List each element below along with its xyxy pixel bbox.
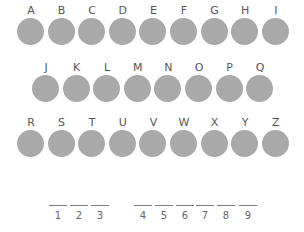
letter-key-disc[interactable] bbox=[78, 130, 105, 157]
letter-key-disc[interactable] bbox=[139, 18, 166, 45]
answer-slot-underline bbox=[196, 205, 214, 206]
answer-slot-number: 4 bbox=[134, 210, 152, 222]
letter-key-s[interactable]: S bbox=[48, 116, 76, 160]
letter-key-label: U bbox=[109, 116, 137, 129]
letter-key-e[interactable]: E bbox=[139, 4, 167, 48]
letter-key-label: V bbox=[139, 116, 167, 129]
letter-key-disc[interactable] bbox=[170, 130, 197, 157]
answer-slot-number: 7 bbox=[196, 210, 214, 222]
letter-key-disc[interactable] bbox=[48, 130, 75, 157]
letter-key-disc[interactable] bbox=[231, 18, 258, 45]
letter-key-label: H bbox=[231, 4, 259, 17]
answer-slot-underline bbox=[91, 205, 109, 206]
letter-key-disc[interactable] bbox=[78, 18, 105, 45]
letter-key-m[interactable]: M bbox=[124, 61, 152, 105]
letter-key-disc[interactable] bbox=[262, 130, 289, 157]
letter-key-disc[interactable] bbox=[262, 18, 289, 45]
letter-key-c[interactable]: C bbox=[78, 4, 106, 48]
letter-key-label: Y bbox=[231, 116, 259, 129]
answer-slot-7[interactable]: 7 bbox=[196, 205, 214, 225]
letter-key-u[interactable]: U bbox=[109, 116, 137, 160]
answer-slot-underline bbox=[155, 205, 173, 206]
answer-slot-3[interactable]: 3 bbox=[91, 205, 109, 225]
letter-key-disc[interactable] bbox=[170, 18, 197, 45]
letter-key-disc[interactable] bbox=[32, 75, 59, 102]
letter-key-y[interactable]: Y bbox=[231, 116, 259, 160]
letter-key-disc[interactable] bbox=[201, 130, 228, 157]
answer-slot-2[interactable]: 2 bbox=[70, 205, 88, 225]
letter-key-label: C bbox=[78, 4, 106, 17]
letter-key-disc[interactable] bbox=[201, 18, 228, 45]
letter-key-k[interactable]: K bbox=[63, 61, 91, 105]
letter-key-l[interactable]: L bbox=[93, 61, 121, 105]
letter-key-j[interactable]: J bbox=[32, 61, 60, 105]
letter-key-disc[interactable] bbox=[216, 75, 243, 102]
letter-key-v[interactable]: V bbox=[139, 116, 167, 160]
letter-key-label: I bbox=[262, 4, 290, 17]
letter-key-label: E bbox=[139, 4, 167, 17]
letter-key-disc[interactable] bbox=[124, 75, 151, 102]
letter-key-a[interactable]: A bbox=[17, 4, 45, 48]
letter-key-label: O bbox=[185, 61, 213, 74]
letter-key-label: A bbox=[17, 4, 45, 17]
letter-key-h[interactable]: H bbox=[231, 4, 259, 48]
answer-slot-underline bbox=[176, 205, 194, 206]
letter-key-disc[interactable] bbox=[185, 75, 212, 102]
answer-slot-6[interactable]: 6 bbox=[176, 205, 194, 225]
answer-slot-1[interactable]: 1 bbox=[49, 205, 67, 225]
answer-slot-underline bbox=[239, 205, 257, 206]
letter-key-disc[interactable] bbox=[109, 130, 136, 157]
answer-slot-number: 8 bbox=[217, 210, 235, 222]
letter-key-label: Q bbox=[246, 61, 274, 74]
letter-key-label: F bbox=[170, 4, 198, 17]
letter-key-i[interactable]: I bbox=[262, 4, 290, 48]
letter-key-o[interactable]: O bbox=[185, 61, 213, 105]
letter-key-d[interactable]: D bbox=[109, 4, 137, 48]
letter-key-label: K bbox=[63, 61, 91, 74]
letter-key-q[interactable]: Q bbox=[246, 61, 274, 105]
letter-key-label: Z bbox=[262, 116, 290, 129]
letter-key-label: D bbox=[109, 4, 137, 17]
letter-key-disc[interactable] bbox=[63, 75, 90, 102]
letter-key-disc[interactable] bbox=[154, 75, 181, 102]
answer-slot-8[interactable]: 8 bbox=[217, 205, 235, 225]
answer-slot-number: 1 bbox=[49, 210, 67, 222]
answer-slot-underline bbox=[49, 205, 67, 206]
letter-key-label: L bbox=[93, 61, 121, 74]
letter-key-label: T bbox=[78, 116, 106, 129]
letter-key-f[interactable]: F bbox=[170, 4, 198, 48]
letter-key-label: J bbox=[32, 61, 60, 74]
letter-key-disc[interactable] bbox=[139, 130, 166, 157]
letter-key-w[interactable]: W bbox=[170, 116, 198, 160]
letter-key-label: W bbox=[170, 116, 198, 129]
letter-key-label: X bbox=[201, 116, 229, 129]
letter-key-disc[interactable] bbox=[231, 130, 258, 157]
answer-slot-9[interactable]: 9 bbox=[239, 205, 257, 225]
letter-key-disc[interactable] bbox=[17, 18, 44, 45]
letter-key-z[interactable]: Z bbox=[262, 116, 290, 160]
letter-key-b[interactable]: B bbox=[48, 4, 76, 48]
letter-key-p[interactable]: P bbox=[216, 61, 244, 105]
letter-key-label: R bbox=[17, 116, 45, 129]
answer-slot-number: 5 bbox=[155, 210, 173, 222]
letter-key-disc[interactable] bbox=[17, 130, 44, 157]
answer-slot-underline bbox=[70, 205, 88, 206]
answer-slot-5[interactable]: 5 bbox=[155, 205, 173, 225]
letter-key-disc[interactable] bbox=[246, 75, 273, 102]
letter-key-label: B bbox=[48, 4, 76, 17]
letter-key-disc[interactable] bbox=[109, 18, 136, 45]
answer-slot-number: 6 bbox=[176, 210, 194, 222]
answer-slot-4[interactable]: 4 bbox=[134, 205, 152, 225]
answer-slot-number: 9 bbox=[239, 210, 257, 222]
letter-key-disc[interactable] bbox=[93, 75, 120, 102]
answer-slot-underline bbox=[134, 205, 152, 206]
letter-key-n[interactable]: N bbox=[154, 61, 182, 105]
answer-slot-underline bbox=[217, 205, 235, 206]
answer-slot-number: 3 bbox=[91, 210, 109, 222]
letter-key-g[interactable]: G bbox=[201, 4, 229, 48]
letter-key-label: N bbox=[154, 61, 182, 74]
letter-key-x[interactable]: X bbox=[201, 116, 229, 160]
letter-key-r[interactable]: R bbox=[17, 116, 45, 160]
letter-key-t[interactable]: T bbox=[78, 116, 106, 160]
letter-key-disc[interactable] bbox=[48, 18, 75, 45]
